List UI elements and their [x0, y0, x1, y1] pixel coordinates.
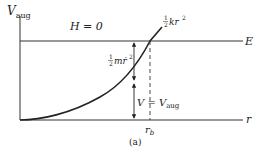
kinetic-label: 1 2 mṙ 2 [108, 53, 133, 67]
r-axis-label: r [246, 113, 252, 126]
curve-label: 1 2 kr 2 [163, 14, 186, 28]
diagram-figure: Vaug H = 0 E r 1 2 kr 2 1 2 mṙ 2 V = Vau… [0, 0, 267, 157]
svg-text:2: 2 [164, 21, 168, 28]
svg-text:mṙ: mṙ [114, 56, 128, 66]
y-axis-label: Vaug [7, 4, 31, 20]
svg-text:1: 1 [164, 14, 168, 21]
hamiltonian-label: H = 0 [69, 20, 103, 33]
svg-text:2: 2 [109, 60, 113, 67]
svg-text:2: 2 [129, 53, 133, 60]
figure-caption: (a) [129, 137, 141, 147]
turning-point-label: rb [145, 124, 155, 137]
energy-label: E [244, 35, 253, 48]
svg-text:2: 2 [182, 14, 186, 21]
potential-label: V = Vaug [137, 97, 180, 110]
svg-text:kr: kr [169, 17, 179, 27]
svg-text:1: 1 [109, 53, 113, 60]
